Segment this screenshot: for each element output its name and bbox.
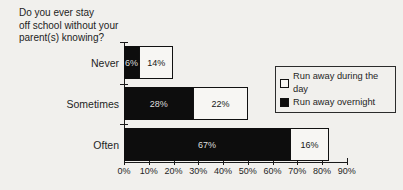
x-tick-label: 10% xyxy=(140,166,158,176)
category-label-sometimes: Sometimes xyxy=(14,98,119,110)
legend-item-label: Run away overnight xyxy=(293,96,375,109)
bar-value-label: 6% xyxy=(125,58,138,68)
category-label-often: Often xyxy=(14,139,119,151)
y-tick-mark xyxy=(120,84,128,85)
legend-swatch-icon xyxy=(280,98,289,107)
bar-value-label: 14% xyxy=(147,58,165,68)
chart-canvas: Do you ever stay off school without your… xyxy=(0,0,403,190)
legend-swatch-icon xyxy=(280,79,289,88)
x-tick-label: 70% xyxy=(288,166,306,176)
x-axis-line xyxy=(124,162,348,163)
bar-segment-never-day: 14% xyxy=(139,46,174,79)
x-tick-label: 60% xyxy=(263,166,281,176)
y-tick-mark xyxy=(120,124,128,125)
legend-item: Run away during the day xyxy=(280,70,391,96)
x-tick-label: 90% xyxy=(338,166,356,176)
y-tick-mark xyxy=(120,42,128,43)
bar-segment-never-overnight: 6% xyxy=(124,46,139,79)
x-tick-label: 40% xyxy=(214,166,232,176)
x-tick-label: 80% xyxy=(313,166,331,176)
bar-segment-often-overnight: 67% xyxy=(124,128,290,161)
x-tick-label: 20% xyxy=(164,166,182,176)
x-tick-mark xyxy=(347,158,348,165)
bar-value-label: 67% xyxy=(198,140,216,150)
legend-item-label: Run away during the day xyxy=(293,70,391,96)
bar-value-label: 28% xyxy=(150,99,168,109)
bar-value-label: 16% xyxy=(301,140,319,150)
x-tick-label: 30% xyxy=(189,166,207,176)
category-label-never: Never xyxy=(14,57,119,69)
legend: Run away during the dayRun away overnigh… xyxy=(275,66,396,113)
legend-item: Run away overnight xyxy=(280,96,391,109)
x-tick-label: 50% xyxy=(239,166,257,176)
bar-segment-sometimes-day: 22% xyxy=(193,87,247,120)
x-tick-label: 0% xyxy=(117,166,130,176)
bar-value-label: 22% xyxy=(212,99,230,109)
bar-segment-sometimes-overnight: 28% xyxy=(124,87,193,120)
bar-segment-often-day: 16% xyxy=(290,128,330,161)
